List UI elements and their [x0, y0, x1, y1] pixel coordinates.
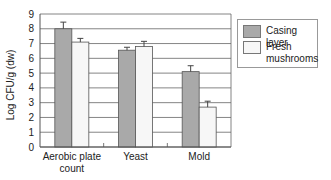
y-tick-label: 5	[28, 68, 34, 79]
legend: Casing layer Fresh mushrooms	[237, 19, 318, 68]
bar	[72, 42, 89, 147]
y-tick-label: 4	[28, 82, 34, 93]
bar	[182, 72, 199, 147]
y-tick-label: 2	[28, 112, 34, 123]
y-axis-label: Log CFU/g (dw)	[5, 50, 16, 121]
y-tick-label: 6	[28, 53, 34, 64]
bar	[136, 47, 153, 147]
legend-swatch-fresh	[243, 41, 261, 54]
y-tick-label: 7	[28, 38, 34, 49]
y-tick-label: 1	[28, 127, 34, 138]
y-tick-label: 8	[28, 23, 34, 34]
y-tick-label: 3	[28, 97, 34, 108]
legend-swatch-casing	[243, 25, 261, 38]
bar	[199, 107, 216, 147]
legend-label: Fresh mushrooms	[266, 41, 318, 65]
y-tick-label: 0	[28, 142, 34, 153]
bar	[119, 50, 136, 147]
x-tick-label: Aerobic plate	[43, 151, 102, 162]
y-tick-label: 9	[28, 9, 34, 20]
bar	[55, 29, 72, 147]
x-axis: Aerobic platecountYeastMold	[40, 143, 231, 174]
legend-item-fresh-mushrooms: Fresh mushrooms	[243, 41, 318, 65]
x-tick-label: count	[60, 163, 85, 174]
x-tick-label: Yeast	[123, 151, 148, 162]
x-tick-label: Mold	[188, 151, 210, 162]
bars	[55, 22, 216, 147]
